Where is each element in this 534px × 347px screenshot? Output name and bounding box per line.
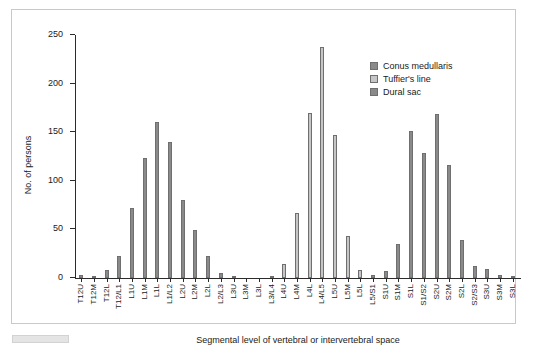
bar-slot[interactable]: L3M xyxy=(240,35,253,278)
bar-slot[interactable]: L5U xyxy=(329,35,342,278)
bar[interactable] xyxy=(155,122,159,278)
x-axis-tick xyxy=(500,278,501,282)
bar-slot[interactable]: L3/L4 xyxy=(265,35,278,278)
bar-slot[interactable]: L1M xyxy=(138,35,151,278)
bar-slot[interactable]: S3L xyxy=(506,35,519,278)
x-axis-tick-label: S2M xyxy=(445,284,453,300)
bar-slot[interactable]: L4L xyxy=(303,35,316,278)
x-axis-tick-label: S1M xyxy=(394,284,402,300)
bar[interactable] xyxy=(384,271,388,278)
bar-slot[interactable]: S2/S3 xyxy=(468,35,481,278)
x-axis-tick xyxy=(183,278,184,282)
x-axis-tick xyxy=(246,278,247,282)
bar[interactable] xyxy=(333,135,337,278)
x-axis-tick xyxy=(132,278,133,282)
bar[interactable] xyxy=(460,240,464,278)
bar-slot[interactable]: L1U xyxy=(126,35,139,278)
bar-slot[interactable]: L1L xyxy=(151,35,164,278)
x-axis-tick xyxy=(221,278,222,282)
x-axis-tick xyxy=(94,278,95,282)
x-axis-tick-label: S1L xyxy=(407,284,415,298)
legend-item[interactable]: Tuffier's line xyxy=(370,73,453,85)
x-axis-tick-label: L1L xyxy=(153,284,161,297)
x-axis-tick-label: L5/S1 xyxy=(369,284,377,305)
x-axis-tick xyxy=(284,278,285,282)
x-axis-tick xyxy=(360,278,361,282)
bar[interactable] xyxy=(346,236,350,278)
bar[interactable] xyxy=(320,47,324,278)
x-axis-tick-label: S3M xyxy=(496,284,504,300)
y-axis-tick-label: 200 xyxy=(48,78,63,87)
x-axis-tick-label: T12L xyxy=(103,284,111,302)
bar[interactable] xyxy=(473,266,477,278)
bar[interactable] xyxy=(168,142,172,278)
bar-slot[interactable]: L4M xyxy=(291,35,304,278)
x-axis-tick-label: T12U xyxy=(77,284,85,304)
legend-item[interactable]: Conus medullaris xyxy=(370,60,453,72)
x-axis-tick xyxy=(335,278,336,282)
x-axis-tick xyxy=(513,278,514,282)
bar-slot[interactable]: L4/L5 xyxy=(316,35,329,278)
x-axis-tick xyxy=(437,278,438,282)
bar-slot[interactable]: T12/L1 xyxy=(113,35,126,278)
x-axis-tick xyxy=(411,278,412,282)
bar[interactable] xyxy=(396,244,400,278)
bar[interactable] xyxy=(485,269,489,278)
bar[interactable] xyxy=(130,208,134,278)
bar-slot[interactable]: L2L xyxy=(202,35,215,278)
bar-slot[interactable]: L3U xyxy=(227,35,240,278)
x-axis-tick-label: L5L xyxy=(356,284,364,297)
y-axis-tick-label: 150 xyxy=(48,127,63,136)
bar-slot[interactable]: T12L xyxy=(100,35,113,278)
bar[interactable] xyxy=(181,200,185,278)
x-axis-tick-label: L3/L4 xyxy=(268,284,276,304)
bar-slot[interactable]: L3L xyxy=(253,35,266,278)
x-axis-tick-label: S2U xyxy=(433,284,441,300)
x-axis-tick xyxy=(170,278,171,282)
chart-frame: No. of persons 050100150200250 T12UT12MT… xyxy=(11,9,516,324)
bar-slot[interactable]: L4U xyxy=(278,35,291,278)
bar-slot[interactable]: L1/L2 xyxy=(164,35,177,278)
bar[interactable] xyxy=(117,256,121,278)
bar[interactable] xyxy=(282,264,286,278)
bar[interactable] xyxy=(435,114,439,278)
bar-slot[interactable]: T12U xyxy=(75,35,88,278)
x-axis-tick xyxy=(81,278,82,282)
x-axis-tick-label: L1U xyxy=(128,284,136,299)
x-axis-tick-label: L2U xyxy=(179,284,187,299)
bar-slot[interactable]: T12M xyxy=(88,35,101,278)
bar-slot[interactable]: S3U xyxy=(481,35,494,278)
bar-slot[interactable]: L5M xyxy=(341,35,354,278)
bar-slot[interactable]: L2/L3 xyxy=(215,35,228,278)
bar[interactable] xyxy=(308,113,312,278)
bar[interactable] xyxy=(447,165,451,278)
legend-item[interactable]: Dural sac xyxy=(370,86,453,98)
bar[interactable] xyxy=(422,153,426,278)
bar-slot[interactable]: S2L xyxy=(456,35,469,278)
x-axis-tick xyxy=(145,278,146,282)
bar[interactable] xyxy=(295,213,299,278)
bar-slot[interactable]: L5L xyxy=(354,35,367,278)
bar-slot[interactable]: L2U xyxy=(176,35,189,278)
bar[interactable] xyxy=(105,270,109,278)
x-axis-tick xyxy=(398,278,399,282)
bar-slot[interactable]: S3M xyxy=(494,35,507,278)
bar[interactable] xyxy=(358,270,362,278)
x-axis-tick-label: T12M xyxy=(90,284,98,304)
legend-label: Dural sac xyxy=(383,87,421,97)
x-axis-tick-label: L2L xyxy=(204,284,212,297)
bar[interactable] xyxy=(143,158,147,278)
x-axis-tick-label: S2L xyxy=(458,284,466,298)
x-axis-tick-label: S1/S2 xyxy=(420,284,428,306)
x-axis-tick-label: L3L xyxy=(255,284,263,297)
y-axis-tick-label: 0 xyxy=(58,273,63,282)
x-axis-tick xyxy=(424,278,425,282)
bar[interactable] xyxy=(193,230,197,278)
x-axis-tick xyxy=(449,278,450,282)
bar[interactable] xyxy=(206,256,210,278)
bar-slot[interactable]: L2M xyxy=(189,35,202,278)
y-axis-tick-label: 50 xyxy=(53,224,63,233)
bar[interactable] xyxy=(409,131,413,278)
legend-swatch-icon xyxy=(370,75,378,83)
x-axis-tick-label: S2/S3 xyxy=(471,284,479,306)
